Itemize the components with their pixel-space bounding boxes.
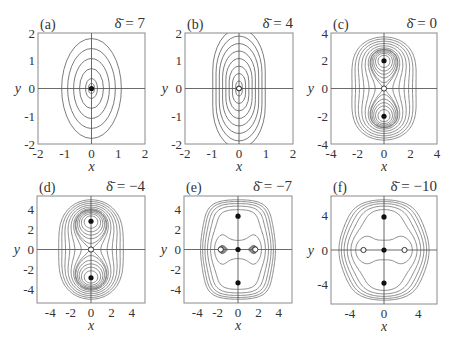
delta-label: δ̄ = −7 [253, 178, 292, 194]
y-tick-label: 2 [176, 26, 183, 41]
y-tick-label: 2 [322, 53, 329, 68]
y-tick-label: 2 [29, 26, 36, 41]
x-axis-label: x [380, 159, 388, 174]
x-axis-label: x [235, 159, 243, 174]
x-tick-label: 4 [129, 305, 136, 320]
saddle-point [381, 86, 386, 91]
x-tick-label: -1 [207, 146, 218, 161]
y-tick-label: -1 [24, 109, 35, 124]
x-tick-label: 4 [434, 146, 441, 161]
x-tick-label: 4 [276, 305, 283, 320]
y-axis-label: y [159, 242, 168, 257]
x-tick-label: 2 [142, 146, 149, 161]
panel-d: -4-2024-4-2024xy(d)δ̄ = −4 [12, 178, 146, 333]
x-tick-label: -2 [212, 305, 223, 320]
panel-label: (d) [39, 180, 56, 196]
y-tick-label: -4 [23, 282, 34, 297]
x-tick-label: -2 [65, 305, 76, 320]
y-tick-label: 0 [176, 81, 183, 96]
saddle-point [218, 247, 223, 252]
x-tick-label: 1 [263, 146, 270, 161]
y-tick-label: 1 [29, 53, 36, 68]
y-tick-label: -2 [170, 262, 181, 277]
stable-point [381, 280, 386, 285]
panel-e: -4-2024-4-2024xy(e)δ̄ = −7 [159, 178, 293, 333]
delta-label: δ̄ = −10 [391, 178, 438, 194]
y-tick-label: 4 [28, 202, 35, 217]
x-tick-label: -4 [344, 306, 355, 321]
x-tick-label: 2 [255, 305, 262, 320]
y-tick-label: 0 [322, 81, 329, 96]
stable-point [235, 280, 240, 285]
y-tick-label: -1 [171, 109, 182, 124]
x-axis-label: x [234, 318, 242, 333]
saddle-point [253, 247, 258, 252]
panel-c: -4-2024-4-2024xy(c)δ̄ = 0 [306, 15, 441, 174]
y-tick-label: 0 [28, 242, 35, 257]
y-tick-label: 0 [322, 243, 329, 258]
panel-label: (b) [187, 17, 204, 33]
panel-label: (f) [333, 180, 347, 196]
y-axis-label: y [306, 81, 315, 96]
x-tick-label: -4 [45, 305, 56, 320]
y-tick-label: 2 [175, 222, 182, 237]
panel-label: (e) [186, 180, 202, 196]
y-tick-label: 4 [322, 208, 329, 223]
delta-label: δ̄ = 4 [262, 15, 293, 31]
stable-point [381, 214, 386, 219]
y-tick-label: 2 [28, 222, 35, 237]
x-tick-label: -4 [192, 305, 203, 320]
panel-f: -404-404xy(f)δ̄ = −10 [306, 178, 437, 334]
y-tick-label: -2 [23, 262, 34, 277]
stable-point [88, 219, 93, 224]
stable-point [381, 114, 386, 119]
stable-point [381, 247, 386, 252]
x-tick-label: 1 [115, 146, 122, 161]
center-point [237, 86, 242, 91]
x-axis-label: x [87, 159, 95, 174]
saddle-point [361, 247, 366, 252]
panel-label: (c) [333, 17, 349, 33]
x-tick-label: -2 [352, 146, 363, 161]
y-axis-label: y [306, 243, 315, 258]
x-axis-label: x [380, 319, 388, 334]
y-tick-label: -2 [171, 137, 182, 152]
x-tick-label: 2 [407, 146, 414, 161]
y-axis-label: y [12, 242, 21, 257]
figure: -2-1012-2-1012xy(a)δ̄ = 7-2-1012-2-1012x… [0, 0, 457, 346]
x-tick-label: 4 [415, 306, 422, 321]
y-tick-label: -4 [317, 137, 328, 152]
y-tick-label: -4 [317, 277, 328, 292]
y-tick-label: 0 [29, 81, 36, 96]
y-tick-label: 4 [322, 26, 329, 41]
saddle-point [88, 247, 93, 252]
stable-point [88, 275, 93, 280]
panel-label: (a) [40, 17, 56, 33]
delta-label: δ̄ = −4 [106, 178, 145, 194]
y-tick-label: 1 [176, 53, 183, 68]
y-tick-label: 4 [175, 202, 182, 217]
y-tick-label: -2 [317, 109, 328, 124]
stable-point [235, 214, 240, 219]
stable-point [381, 58, 386, 63]
panel-a: -2-1012-2-1012xy(a)δ̄ = 7 [13, 15, 148, 174]
y-tick-label: 0 [175, 242, 182, 257]
y-tick-label: -4 [170, 282, 181, 297]
x-axis-label: x [87, 318, 95, 333]
x-tick-label: 2 [290, 146, 297, 161]
y-axis-label: y [13, 81, 22, 96]
stable-point [235, 247, 240, 252]
x-tick-label: -1 [59, 146, 70, 161]
saddle-point [402, 247, 407, 252]
panel-b: -2-1012-2-1012xy(b)δ̄ = 4 [160, 15, 296, 174]
stable-point [89, 86, 94, 91]
delta-label: δ̄ = 7 [114, 15, 145, 31]
y-tick-label: -2 [24, 137, 35, 152]
y-axis-label: y [160, 81, 169, 96]
x-tick-label: 2 [108, 305, 115, 320]
delta-label: δ̄ = 0 [406, 15, 437, 31]
